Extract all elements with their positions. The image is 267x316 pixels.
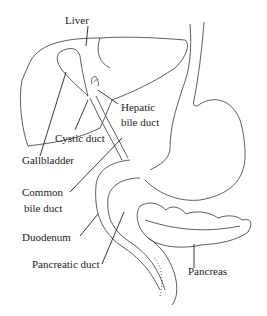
liver-pointer — [86, 26, 88, 46]
esophagus-right — [193, 22, 245, 158]
label-hepatic-2: bile duct — [121, 116, 159, 129]
label-pancreatic-duct: Pancreatic duct — [32, 258, 100, 271]
label-common-2: bile duct — [24, 202, 62, 215]
label-gallbladder: Gallbladder — [22, 154, 74, 167]
duodenum-pointer — [80, 214, 98, 236]
cystic-pointer — [75, 100, 88, 130]
anatomy-diagram: Liver Hepatic bile duct Cystic duct Gall… — [0, 0, 267, 316]
gallbladder-outline — [57, 49, 88, 96]
duodenum-inner — [108, 178, 165, 290]
liver-outline — [20, 37, 187, 146]
esophagus-left — [150, 24, 191, 170]
label-cystic-duct: Cystic duct — [55, 132, 105, 145]
label-duodenum: Duodenum — [22, 231, 71, 244]
intestine-texture — [154, 258, 162, 296]
label-liver: Liver — [65, 14, 89, 27]
pancreatic-duct-line — [145, 220, 240, 230]
label-common: Common — [22, 186, 63, 199]
intestine-curve — [148, 238, 177, 305]
label-hepatic: Hepatic — [121, 101, 155, 114]
pancreas-outline — [137, 203, 251, 247]
liver-right-lobe — [98, 38, 110, 68]
pancreatic-duct-pointer — [102, 212, 124, 264]
hepatic-duct-shape — [92, 77, 99, 86]
label-pancreas: Pancreas — [188, 265, 227, 278]
hepatic-pointer — [98, 90, 118, 104]
